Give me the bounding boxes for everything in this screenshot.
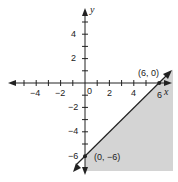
x-tick-label: −4 (30, 88, 40, 98)
inequality-graph: y x 0 −4 −2 2 4 6 4 2 −2 −4 −6 (6, 0) (0… (0, 0, 178, 182)
x-axis-left-arrow-icon (8, 80, 16, 86)
y-axis-label: y (89, 4, 95, 15)
x-tick-label: 4 (131, 88, 136, 98)
y-tick-label: −6 (68, 151, 78, 161)
x-tick-label: −2 (55, 88, 65, 98)
y-axis-up-arrow-icon (82, 8, 88, 16)
x-tick-label: 6 (157, 90, 162, 100)
x-tick-label: 2 (107, 88, 112, 98)
point-0-m6 (83, 154, 87, 158)
point-6-0 (157, 81, 161, 85)
point-label-0-m6: (0, −6) (94, 152, 120, 162)
line-lower-arrow-icon (73, 163, 81, 172)
y-tick-label: 4 (71, 29, 76, 39)
x-axis-label: x (163, 86, 169, 97)
origin-label: 0 (87, 86, 92, 96)
y-tick-label: −2 (68, 102, 78, 112)
y-tick-label: −4 (68, 126, 78, 136)
point-label-6-0: (6, 0) (138, 68, 159, 78)
y-tick-label: 2 (71, 53, 76, 63)
